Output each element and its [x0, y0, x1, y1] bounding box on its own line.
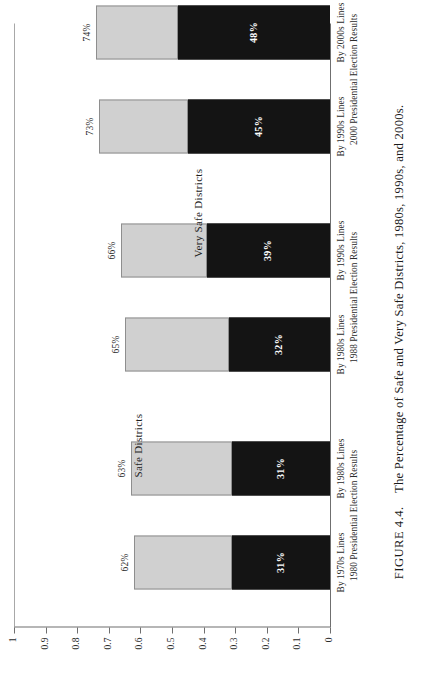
annotation-safe-districts: Safe Districts [132, 413, 144, 477]
bar-value-total: 63% [117, 441, 127, 495]
y-axis-tick [298, 627, 299, 633]
y-axis-tick-label: 0.8 [72, 637, 82, 683]
y-axis-tick [267, 627, 268, 633]
figure-caption: FIGURE 4.4. The Percentage of Safe and V… [392, 0, 407, 683]
annotation-very-safe-districts: Very Safe Districts [192, 168, 204, 257]
bar-value-very-safe: 31% [275, 441, 286, 495]
y-axis-tick-label: 0.5 [167, 637, 177, 683]
bar-6[interactable] [96, 5, 330, 59]
x-axis-line [330, 23, 331, 627]
bar-value-total: 73% [85, 99, 95, 153]
category-label-1: By 1970s Lines [336, 517, 347, 607]
figure-4-4: 00.10.20.30.40.50.60.70.80.91 31%62%31%6… [0, 0, 440, 683]
bar-value-total: 74% [82, 5, 92, 59]
category-label-6: By 2000s Lines [336, 0, 347, 77]
figure-number: FIGURE 4.4. [392, 506, 406, 579]
y-axis-tick [330, 627, 331, 633]
bar-value-very-safe: 45% [253, 99, 264, 153]
y-axis-tick [204, 627, 205, 633]
y-axis-tick-label: 0.9 [41, 637, 51, 683]
y-axis-tick-label: 0.4 [199, 637, 209, 683]
bar-value-very-safe: 32% [273, 317, 284, 371]
bar-1[interactable] [134, 535, 330, 589]
y-axis-tick-label: 0.1 [293, 637, 303, 683]
y-axis-tick-label: 0.2 [262, 637, 272, 683]
bar-value-very-safe: 39% [262, 223, 273, 277]
y-axis-tick-label: 0.3 [230, 637, 240, 683]
rotated-page-content: 00.10.20.30.40.50.60.70.80.91 31%62%31%6… [0, 0, 440, 683]
bar-segment-safe [134, 535, 232, 589]
y-axis-tick-label: 0.6 [135, 637, 145, 683]
y-axis-tick [46, 627, 47, 633]
y-axis-tick [77, 627, 78, 633]
category-label-5: By 1990s Lines [336, 81, 347, 171]
y-axis-tick [172, 627, 173, 633]
bar-value-very-safe: 31% [275, 535, 286, 589]
y-axis-tick-label: 0.7 [104, 637, 114, 683]
bar-value-total: 65% [111, 317, 121, 371]
group-label-2: 1988 Presidential Election Results [349, 212, 360, 382]
bar-value-total: 66% [107, 223, 117, 277]
bar-segment-safe [96, 5, 178, 59]
y-axis-tick-label: 0 [325, 637, 335, 683]
y-axis-tick [14, 627, 15, 633]
y-axis-tick [140, 627, 141, 633]
bar-3[interactable] [125, 317, 330, 371]
bar-segment-safe [131, 441, 232, 495]
y-axis-tick [235, 627, 236, 633]
bar-value-total: 62% [120, 535, 130, 589]
page-canvas: 00.10.20.30.40.50.60.70.80.91 31%62%31%6… [0, 0, 440, 683]
y-axis-tick [109, 627, 110, 633]
y-axis-tick-label: 1 [9, 637, 19, 683]
bar-segment-safe [125, 317, 229, 371]
group-label-1: 1980 Presidential Election Results [349, 430, 360, 600]
bar-2[interactable] [131, 441, 330, 495]
bar-value-very-safe: 48% [248, 5, 259, 59]
category-label-2: By 1980s Lines [336, 423, 347, 513]
category-label-3: By 1980s Lines [336, 299, 347, 389]
category-label-4: By 1990s Lines [336, 205, 347, 295]
group-label-3: 2000 Presidential Election Results [349, 0, 360, 164]
figure-caption-text: The Percentage of Safe and Very Safe Dis… [392, 104, 406, 492]
bar-segment-safe [99, 99, 187, 153]
bar-4[interactable] [121, 223, 330, 277]
bar-5[interactable] [99, 99, 330, 153]
